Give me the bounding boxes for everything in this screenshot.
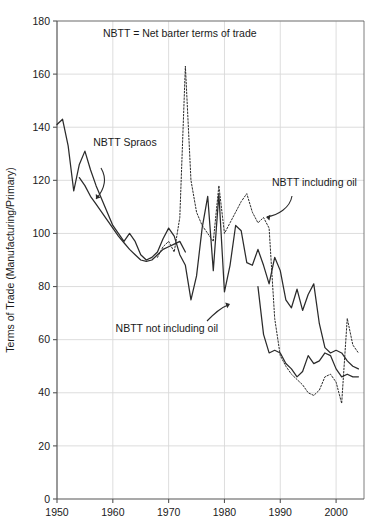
tick-label-x-1980: 1980: [213, 506, 237, 518]
tick-label-y-40: 40: [38, 386, 50, 398]
annotation-including-oil-label: NBTT including oil: [272, 176, 357, 188]
tick-label-x-1950: 1950: [45, 506, 69, 518]
chart-container: 020406080100120140160180 195019601970198…: [0, 0, 377, 531]
tick-label-y-100: 100: [32, 227, 50, 239]
annotation-not-including-oil-label: NBTT not including oil: [116, 322, 219, 334]
tick-label-x-1970: 1970: [157, 506, 181, 518]
tick-label-x-1960: 1960: [101, 506, 125, 518]
tick-label-y-20: 20: [38, 440, 50, 452]
annotation-spraos-label: NBTT Spraos: [93, 136, 156, 148]
tick-label-y-160: 160: [32, 68, 50, 80]
annotation-note: NBTT = Net barter terms of trade: [103, 27, 257, 39]
tick-label-y-80: 80: [38, 280, 50, 292]
tick-label-x-1990: 1990: [269, 506, 293, 518]
tick-label-y-60: 60: [38, 333, 50, 345]
tick-label-x-2000: 2000: [324, 506, 348, 518]
terms-of-trade-line-chart: 020406080100120140160180 195019601970198…: [0, 0, 377, 531]
y-axis-title: Terms of Trade (Manufacturing/Primary): [4, 167, 16, 353]
tick-label-y-0: 0: [44, 493, 50, 505]
tick-label-y-180: 180: [32, 15, 50, 27]
tick-label-y-140: 140: [32, 121, 50, 133]
tick-label-y-120: 120: [32, 174, 50, 186]
